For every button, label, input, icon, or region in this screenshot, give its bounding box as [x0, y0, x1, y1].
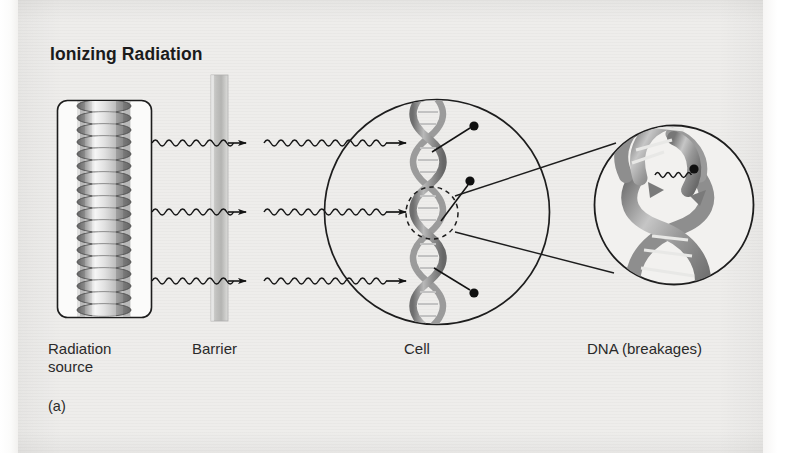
barrier-slab-icon — [211, 75, 228, 321]
wavy-ray-arrow-icon — [264, 278, 386, 284]
dna-breakage-magnifier-icon — [595, 118, 754, 300]
electron-group — [432, 121, 479, 297]
label-cell: Cell — [404, 340, 430, 358]
magnifier-leader-lines — [455, 143, 616, 273]
dna-double-helix-icon — [413, 90, 443, 330]
electron-dot-icon — [689, 164, 698, 173]
label-radiation-source: Radiation source — [48, 340, 111, 377]
label-barrier: Barrier — [192, 340, 237, 358]
rays-barrier-to-cell — [228, 143, 246, 281]
figure-root: Ionizing Radiation — [0, 0, 799, 453]
coil-emitter-icon — [77, 100, 131, 317]
rays-into-cell — [264, 140, 406, 284]
radiation-source-group — [58, 100, 152, 318]
diagram-canvas — [0, 0, 799, 453]
label-dna-breakages: DNA (breakages) — [587, 340, 702, 358]
wavy-ray-arrow-icon — [264, 140, 386, 146]
panel-letter: (a) — [48, 398, 66, 416]
